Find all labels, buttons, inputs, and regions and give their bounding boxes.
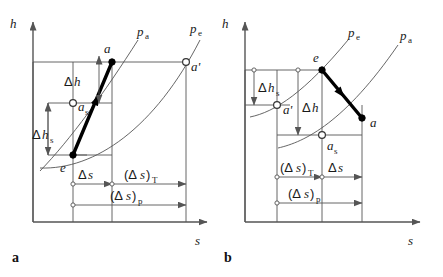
point-a (109, 59, 115, 65)
point-as-a (70, 100, 77, 107)
measure-delta-h-b: Δ h (296, 68, 319, 135)
point-label-a-b: a (370, 115, 377, 130)
curve-label-pa-base-a: p (136, 24, 144, 39)
point-label-as-base-a: a (78, 99, 85, 114)
panel-caption-a: a (12, 250, 19, 265)
x-axis-label-b: s (408, 233, 413, 248)
point-aprime-b (274, 102, 281, 109)
measure-delta-hs-a: Δ h s (32, 103, 54, 155)
point-a-b (359, 115, 365, 121)
measure-delta-hs-b: Δ h s (252, 68, 280, 105)
delta-hs-b-delta: Δ (258, 80, 267, 95)
delta-s-T-a-s: s (140, 167, 145, 182)
measure-delta-s-a: Δ s (71, 167, 112, 186)
point-label-aprime-b: a' (283, 102, 293, 117)
delta-hs-a-delta: Δ (32, 127, 41, 142)
delta-s-T-b-s: s (296, 160, 301, 175)
figure-container: h s p a p e (0, 0, 443, 277)
delta-s-p-b-close: ) (310, 186, 314, 201)
measure-delta-hs-label-a: Δ h s (32, 127, 54, 145)
point-label-as-sub-a: s (85, 107, 89, 117)
measure-delta-hs-origin-b (252, 68, 256, 72)
curve-label-pe-base-b: p (347, 25, 355, 40)
y-axis-label-a: h (10, 16, 17, 31)
delta-s-p-b-s: s (304, 186, 309, 201)
measure-delta-h-label-a: Δ h (64, 74, 81, 89)
delta-s-p-b-open: (Δ (288, 186, 301, 201)
delta-s-T-b-sub: T (308, 168, 314, 178)
panel-b: h s p e p a (222, 16, 420, 265)
curve-label-pe-sub-a: e (198, 28, 202, 38)
x-axis-label-a: s (195, 233, 200, 248)
measure-delta-s-p-label-b: (Δ s ) p (288, 186, 321, 204)
measure-delta-h-label-b: Δ h (302, 100, 319, 115)
delta-s-b-s: s (338, 160, 343, 175)
measure-delta-s-b: Δ s (320, 160, 362, 179)
curve-label-pe-sub-b: e (356, 32, 360, 42)
point-e-a (70, 152, 76, 158)
point-e-b (319, 67, 325, 73)
delta-s-T-b-open: (Δ (280, 160, 293, 175)
y-axis-label-b: h (222, 16, 229, 31)
measure-delta-s-T-label-a: (Δ s ) T (124, 167, 158, 185)
delta-hs-b-h: h (268, 80, 275, 95)
delta-s-T-b-close: ) (302, 160, 306, 175)
delta-s-T-a-sub: T (152, 175, 158, 185)
point-label-a: a (104, 41, 111, 56)
isobar-pa-curve-a (40, 40, 138, 171)
curve-label-pe-base-a: p (189, 21, 197, 36)
measure-delta-s-p-label-a: (Δ s ) p (110, 188, 143, 206)
point-label-aprime-a: a' (191, 59, 201, 74)
delta-s-b-delta: Δ (328, 160, 337, 175)
curve-label-pa-sub-a: a (145, 31, 149, 41)
isobar-pa-curve-b (278, 45, 398, 148)
delta-s-p-a-sub: p (138, 196, 143, 206)
measure-delta-s-origin-a (71, 182, 75, 186)
delta-s-T-a-open: (Δ (124, 167, 137, 182)
delta-h-b-h: h (312, 100, 319, 115)
delta-s-a-s: s (88, 167, 93, 182)
panel-a: h s p a p e (10, 16, 207, 265)
delta-s-a-delta: Δ (78, 167, 87, 182)
curve-label-pa-sub-b: a (408, 35, 412, 45)
measure-delta-h-a: Δ h (64, 56, 99, 103)
point-label-as-base-b: a (327, 138, 334, 153)
delta-s-T-a-close: ) (146, 167, 150, 182)
curve-label-pe-b: p e (347, 25, 360, 42)
measure-delta-s-label-b: Δ s (328, 160, 343, 175)
delta-h-a-delta: Δ (64, 74, 73, 89)
measure-delta-s-p-origin-a (71, 203, 75, 207)
isobar-pe-curve-a (40, 40, 200, 168)
point-aprime-a (183, 59, 190, 66)
delta-s-p-a-open: (Δ (110, 188, 123, 203)
delta-s-p-a-s: s (126, 188, 131, 203)
measure-delta-s-p-b: (Δ s ) p (275, 186, 362, 205)
measure-delta-s-p-a: (Δ s ) p (71, 188, 186, 207)
point-label-as-sub-b: s (334, 146, 338, 156)
point-label-as-a: a s (78, 99, 89, 117)
delta-hs-a-sub: s (50, 135, 54, 145)
panel-caption-b: b (224, 250, 232, 265)
measure-delta-s-T-origin-b (275, 175, 279, 179)
curve-label-pa-base-b: p (399, 28, 407, 43)
delta-s-p-a-close: ) (132, 188, 136, 203)
process-arrow-b (328, 77, 340, 92)
curve-label-pa-a: p a (136, 24, 149, 41)
hs-diagram-svg: h s p a p e (0, 0, 443, 277)
measure-delta-s-T-origin-a (110, 182, 114, 186)
measure-delta-s-origin-b (320, 175, 324, 179)
point-label-e-a: e (60, 160, 66, 175)
delta-h-b-delta: Δ (302, 100, 311, 115)
curve-label-pa-b: p a (399, 28, 412, 45)
delta-s-p-b-sub: p (316, 194, 321, 204)
curve-label-pe-a: p e (189, 21, 202, 38)
point-as-b (319, 132, 326, 139)
delta-hs-b-sub: s (276, 88, 280, 98)
measure-delta-s-T-a: (Δ s ) T (110, 167, 186, 186)
measure-delta-s-T-label-b: (Δ s ) T (280, 160, 314, 178)
measure-delta-s-p-origin-b (275, 201, 279, 205)
measure-delta-s-T-b: (Δ s ) T (275, 160, 322, 179)
delta-hs-a-h: h (42, 127, 49, 142)
point-label-e-b: e (313, 50, 319, 65)
measure-delta-h-origin-b (296, 68, 300, 72)
